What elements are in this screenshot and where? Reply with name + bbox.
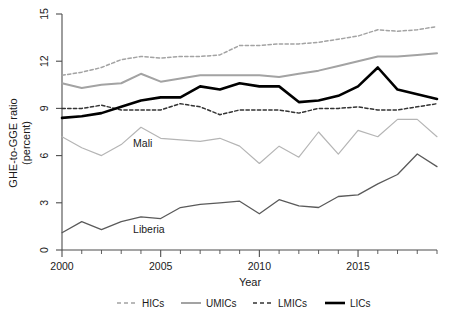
x-tick-label: 2005	[149, 260, 173, 272]
y-tick-label: 15	[38, 8, 50, 20]
legend-label-lics: LICs	[350, 298, 371, 309]
y-tick-label: 9	[38, 105, 50, 111]
chart-figure: GHE-to-GGE ratio (percent) 03691215 2000…	[0, 0, 450, 316]
y-axis-title-line1: GHE-to-GGE ratio	[7, 98, 19, 187]
legend-label-umics: UMICs	[206, 298, 237, 309]
legend-label-hics: HICs	[142, 298, 164, 309]
legend-label-lmics: LMICs	[278, 298, 307, 309]
x-tick-label: 2015	[346, 260, 370, 272]
x-tick-label: 2010	[248, 260, 272, 272]
y-tick-label: 3	[38, 200, 50, 206]
y-tick-label: 6	[38, 153, 50, 159]
y-axis-title-line2: (percent)	[20, 121, 32, 165]
x-tick-label: 2000	[50, 260, 74, 272]
y-tick-label: 0	[38, 247, 50, 253]
series-annotation-mali: Mali	[133, 137, 152, 149]
x-axis-title: Year	[239, 276, 262, 288]
series-annotation-liberia: Liberia	[133, 223, 165, 235]
y-tick-label: 12	[38, 55, 50, 67]
